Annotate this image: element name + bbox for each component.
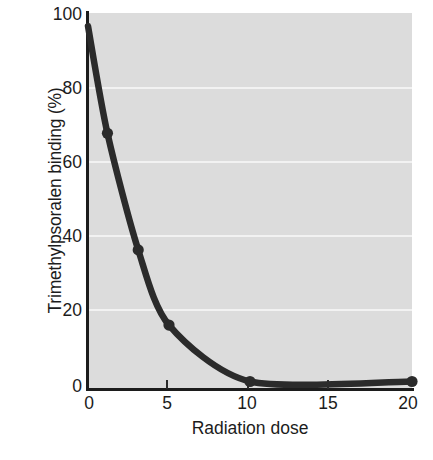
x-tickmark-15 — [327, 380, 329, 389]
x-tick-label-10: 10 — [227, 393, 267, 414]
chart-figure: 100 80 60 40 20 0 Trimethylpsoralen bind… — [0, 0, 433, 460]
y-axis-title: Trimethylpsoralen binding (%) — [45, 11, 66, 391]
gridline-60 — [88, 161, 412, 163]
x-axis-title: Radiation dose — [88, 418, 412, 439]
gridline-40 — [88, 235, 412, 237]
x-tick-label-5: 5 — [147, 393, 187, 414]
x-tick-label-20: 20 — [388, 393, 428, 414]
y-axis-line — [86, 11, 89, 391]
gridline-20 — [88, 309, 412, 311]
gridline-80 — [88, 87, 412, 89]
x-tick-label-15: 15 — [308, 393, 348, 414]
plot-area — [88, 13, 412, 389]
x-tickmark-10 — [247, 380, 249, 389]
x-tick-label-0: 0 — [69, 393, 109, 414]
x-axis-line — [86, 388, 414, 391]
x-tickmark-5 — [166, 380, 168, 389]
